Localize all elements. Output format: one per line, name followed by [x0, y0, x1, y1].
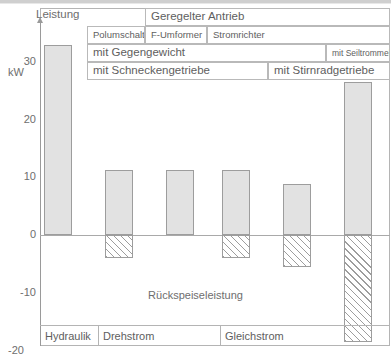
bar-negative-gleichstrom-seiltrommel [283, 235, 311, 267]
header-cell-mit-gegengewicht: mit Gegengewicht [87, 44, 326, 62]
recovery-annotation: Rückspeiseleistung [0, 289, 391, 301]
y-axis-tick-0: 0 [10, 229, 36, 240]
bar-positive-drehstrom-polumschalter [105, 170, 133, 235]
chart-root: Leistung kW 3020100-10 Geregelter Antrie… [0, 0, 391, 355]
y-axis-tick-30: 30 [10, 56, 36, 67]
header-cell-mit-schneckengetriebe: mit Schneckengetriebe [87, 62, 268, 80]
zero-line [40, 235, 390, 236]
header-cell-mit-stirnradgetriebe: mit Stirnradgetriebe [268, 62, 390, 80]
bar-positive-hydraulik [44, 45, 72, 235]
header-cell-mit-seiltrommel: mit Seiltrommel [326, 44, 390, 62]
y-axis-tick-label-min: -20 [8, 344, 24, 355]
category-label-hydraulik: Hydraulik [40, 325, 98, 346]
category-separator [98, 325, 99, 346]
bar-positive-drehstrom-stromrichter [222, 170, 250, 235]
top-edge-artifact-2 [0, 3, 391, 4]
bar-positive-gleichstrom-seiltrommel [283, 184, 311, 235]
bar-positive-gleichstrom-stirnrad [344, 82, 372, 235]
y-axis-tick-20: 20 [10, 114, 36, 125]
header-cell-f-umformer: F-Umformer [145, 26, 207, 44]
bar-negative-drehstrom-polumschalter [105, 235, 133, 258]
header-cell-geregelter-antrieb: Geregelter Antrieb [145, 8, 390, 26]
y-axis-tick-labels: 3020100-10 [0, 0, 36, 355]
bar-positive-drehstrom-f-umformer [166, 170, 194, 235]
header-cell-stromrichter: Stromrichter [207, 26, 390, 44]
category-row: HydraulikDrehstromGleichstrom [40, 325, 390, 346]
bar-negative-drehstrom-stromrichter [222, 235, 250, 258]
category-label-drehstrom: Drehstrom [98, 325, 220, 346]
category-separator [220, 325, 221, 346]
header-table: Geregelter AntriebPolumschalterF-Umforme… [87, 8, 390, 80]
category-label-gleichstrom: Gleichstrom [220, 325, 390, 346]
header-cell-polumschalter: Polumschalter [87, 26, 145, 44]
y-axis-tick-10: 10 [10, 171, 36, 182]
